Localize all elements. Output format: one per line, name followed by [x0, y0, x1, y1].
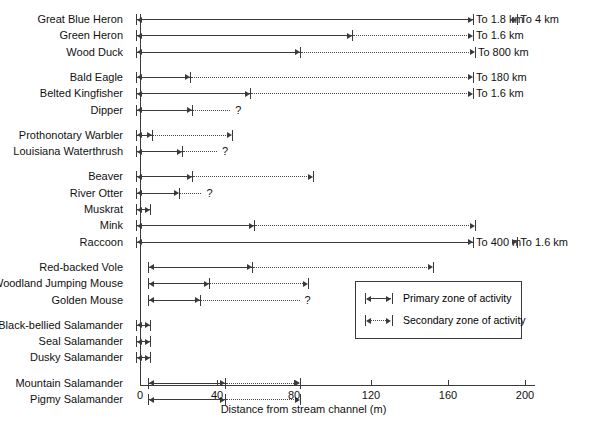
secondary-range-note: To 1.6 km: [476, 88, 524, 99]
primary-zone-segment: [137, 52, 300, 53]
x-axis-tick: [140, 380, 141, 385]
secondary-range-note: To 1.6 km: [520, 237, 568, 248]
primary-zone-segment: [137, 77, 190, 78]
secondary-zone-segment: [201, 300, 300, 301]
secondary-zone-segment: [226, 383, 296, 384]
x-axis-tick-label: 0: [120, 390, 160, 401]
x-axis-tick-label: 160: [428, 390, 468, 401]
secondary-end-cap: [308, 278, 309, 289]
activity-range-row: [0, 378, 607, 389]
x-axis-tick: [525, 380, 526, 385]
y-axis-line: [140, 14, 141, 386]
x-axis-tick-label: 120: [351, 390, 391, 401]
x-axis-tick-label: 80: [274, 390, 314, 401]
primary-end-cap: [150, 320, 151, 331]
secondary-end-cap: [475, 220, 476, 231]
legend-primary-label: Primary zone of activity: [403, 293, 512, 304]
secondary-end-cap: [517, 237, 518, 248]
secondary-zone-segment: [255, 225, 471, 226]
x-axis-tick-label: 40: [197, 390, 237, 401]
activity-range-row: To 1.8 kmTo 4 km: [0, 14, 607, 25]
secondary-end-cap: [433, 262, 434, 273]
primary-zone-segment: [149, 383, 225, 384]
activity-range-row: To 180 km: [0, 72, 607, 83]
secondary-end-cap: [473, 30, 474, 41]
activity-range-row: [0, 352, 607, 363]
activity-range-row: [0, 204, 607, 215]
secondary-end-cap: [475, 47, 476, 58]
legend-primary-right-arrow: [386, 296, 391, 302]
activity-range-row: ?: [0, 146, 607, 157]
primary-zone-segment: [137, 110, 192, 111]
primary-zone-segment: [149, 300, 200, 301]
primary-zone-segment: [137, 176, 192, 177]
secondary-zone-segment: [193, 110, 230, 111]
activity-range-row: ?: [0, 188, 607, 199]
uncertain-extent-question-mark: ?: [206, 188, 212, 199]
secondary-zone-segment: [353, 35, 469, 36]
x-axis-tick: [217, 380, 218, 385]
secondary-zone-segment: [210, 283, 303, 284]
legend-secondary-right-arrow: [386, 318, 391, 324]
secondary-end-cap: [517, 14, 518, 25]
primary-end-cap: [473, 14, 474, 25]
x-axis-tick: [294, 380, 295, 385]
secondary-zone-segment: [191, 77, 469, 78]
stream-fauna-distance-chart: Great Blue HeronGreen HeronWood DuckBald…: [0, 0, 607, 433]
secondary-range-note: To 180 km: [476, 72, 527, 83]
activity-range-row: [0, 130, 607, 141]
chart-legend: Primary zone of activity Secondary zone …: [355, 281, 522, 339]
activity-range-row: To 1.6 km: [0, 30, 607, 41]
secondary-range-note: To 4 km: [520, 14, 559, 25]
x-axis-tick: [448, 380, 449, 385]
activity-range-row: [0, 220, 607, 231]
uncertain-extent-question-mark: ?: [222, 146, 228, 157]
legend-secondary-end-cap: [392, 315, 393, 326]
activity-range-row: [0, 171, 607, 182]
primary-zone-segment: [137, 242, 473, 243]
secondary-end-cap: [313, 171, 314, 182]
primary-end-cap: [150, 204, 151, 215]
primary-end-cap: [150, 336, 151, 347]
uncertain-extent-question-mark: ?: [305, 295, 311, 306]
secondary-zone-segment: [251, 93, 469, 94]
legend-primary-end-cap: [392, 293, 393, 304]
primary-zone-segment: [137, 35, 352, 36]
x-axis-tick-label: 200: [505, 390, 545, 401]
secondary-end-cap: [473, 88, 474, 99]
secondary-zone-segment: [153, 135, 229, 136]
secondary-end-cap: [232, 130, 233, 141]
primary-zone-segment: [149, 283, 210, 284]
x-axis-tick: [371, 380, 372, 385]
secondary-end-cap: [473, 72, 474, 83]
primary-zone-segment: [137, 19, 473, 20]
primary-zone-segment: [149, 267, 252, 268]
primary-zone-segment: [137, 193, 178, 194]
activity-range-row: [0, 262, 607, 273]
secondary-zone-segment: [183, 151, 217, 152]
activity-range-row: To 800 km: [0, 47, 607, 58]
secondary-range-note: To 1.6 km: [476, 30, 524, 41]
primary-zone-segment: [137, 151, 182, 152]
secondary-zone-segment: [253, 267, 429, 268]
legend-secondary-label: Secondary zone of activity: [403, 315, 526, 326]
primary-zone-segment: [137, 93, 250, 94]
primary-end-cap: [150, 352, 151, 363]
primary-end-cap: [473, 237, 474, 248]
activity-range-row: ?: [0, 105, 607, 116]
primary-zone-segment: [137, 225, 253, 226]
secondary-zone-segment: [193, 176, 309, 177]
secondary-range-note: To 800 km: [478, 47, 529, 58]
uncertain-extent-question-mark: ?: [235, 105, 241, 116]
secondary-zone-segment: [301, 52, 471, 53]
activity-range-row: To 400 mTo 1.6 km: [0, 237, 607, 248]
secondary-end-cap: [300, 378, 301, 389]
activity-range-row: To 1.6 km: [0, 88, 607, 99]
x-axis-title: Distance from stream channel (m): [0, 404, 607, 415]
x-axis-line: [140, 385, 535, 386]
secondary-zone-segment: [180, 193, 202, 194]
